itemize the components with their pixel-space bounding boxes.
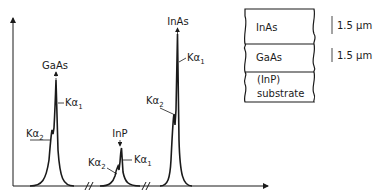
peak-gaas: GaAs Kα1 Kα2: [26, 60, 83, 186]
peak-inas: InAs Kα1 Kα2: [146, 16, 205, 186]
layer-inas-label: InAs: [256, 22, 277, 33]
layer-substrate-line1: (InP): [257, 74, 280, 85]
peak-label-inp: InP: [112, 128, 127, 139]
peak-label-gaas: GaAs: [42, 60, 68, 71]
thickness-inas: 1.5 µm: [337, 20, 372, 31]
inp-ka1-label: Kα1: [134, 154, 152, 168]
layer-gaas-label: GaAs: [256, 52, 282, 63]
layer-substrate-line2: substrate: [257, 88, 304, 99]
layer-stack: InAs GaAs (InP) substrate 1.5 µm 1.5 µm: [244, 9, 372, 102]
inas-ka2-label: Kα2: [146, 95, 164, 109]
inas-ka1-label: Kα1: [187, 52, 205, 66]
peak-label-inas: InAs: [167, 16, 188, 27]
inp-ka2-label: Kα2: [88, 157, 106, 171]
gaas-ka1-label: Kα1: [65, 97, 83, 111]
thickness-gaas: 1.5 µm: [337, 50, 372, 61]
xrd-diagram: GaAs Kα1 Kα2 InP Kα1 Kα2 InAs Kα1 Kα2 In…: [0, 0, 380, 196]
peak-inp: InP Kα1 Kα2: [88, 128, 152, 186]
